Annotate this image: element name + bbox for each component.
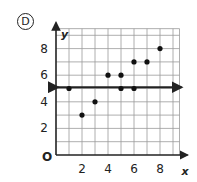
data-point — [131, 86, 136, 91]
data-point — [144, 59, 149, 64]
data-point — [105, 73, 110, 78]
x-tick-label: 6 — [130, 162, 138, 176]
data-point — [118, 73, 123, 78]
x-tick-label: 4 — [104, 162, 112, 176]
y-axis-label: y — [61, 28, 69, 41]
y-tick-label: 8 — [40, 42, 48, 56]
y-tick-label: 6 — [40, 68, 48, 82]
data-point — [118, 86, 123, 91]
data-point — [66, 86, 71, 91]
x-tick-label: 8 — [156, 162, 164, 176]
origin-label: O — [42, 150, 52, 164]
y-tick-label: 4 — [40, 95, 48, 109]
data-point — [79, 113, 84, 118]
y-tick-label: 2 — [40, 121, 48, 135]
data-points — [66, 46, 162, 118]
data-point — [92, 99, 97, 104]
data-point — [131, 59, 136, 64]
x-axis-label: x — [181, 165, 190, 178]
x-tick-label: 2 — [78, 162, 86, 176]
data-point — [157, 46, 162, 51]
scatter-plot: 24682468 x y O — [0, 0, 197, 182]
